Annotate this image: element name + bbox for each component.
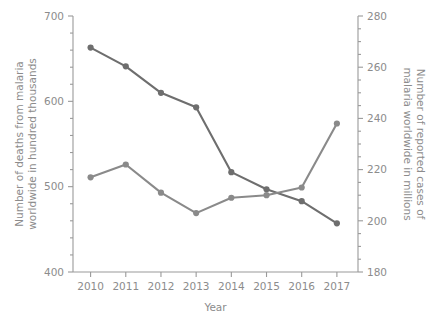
data-point bbox=[87, 174, 93, 180]
right-axis-tick-label: 280 bbox=[367, 10, 387, 22]
left-axis: 400500600700 bbox=[44, 10, 73, 278]
malaria-line-chart: 400500600700 180200220240260280 20102011… bbox=[0, 0, 440, 323]
left-axis-tick-label: 700 bbox=[44, 10, 64, 22]
x-axis-tick-label: 2014 bbox=[218, 280, 245, 292]
series-line-1 bbox=[91, 48, 337, 224]
data-point bbox=[334, 120, 340, 126]
data-point bbox=[228, 195, 234, 201]
data-point bbox=[123, 63, 129, 69]
data-point bbox=[158, 190, 164, 196]
data-point bbox=[158, 90, 164, 96]
right-axis-tick-label: 260 bbox=[367, 61, 387, 73]
right-axis-tick-label: 180 bbox=[367, 266, 387, 278]
data-point bbox=[193, 104, 199, 110]
axis-title-line: Number of deaths from malaria bbox=[13, 61, 25, 227]
x-axis-tick-label: 2016 bbox=[288, 280, 315, 292]
right-axis-tick-label: 240 bbox=[367, 112, 387, 124]
x-axis-tick-label: 2013 bbox=[183, 280, 210, 292]
axis-title-line: Number of reported cases of bbox=[415, 69, 427, 220]
data-point bbox=[263, 186, 269, 192]
x-axis-tick-label: 2015 bbox=[253, 280, 280, 292]
x-axis-tick-label: 2017 bbox=[324, 280, 351, 292]
x-axis-tick-label: 2011 bbox=[112, 280, 139, 292]
x-axis-title: Year bbox=[203, 301, 227, 313]
data-point bbox=[193, 210, 199, 216]
left-axis-tick-label: 600 bbox=[44, 95, 64, 107]
left-axis-tick-label: 400 bbox=[44, 266, 64, 278]
x-axis-tick-label: 2010 bbox=[77, 280, 104, 292]
axis-title-line: malaria worldwide in millions bbox=[402, 67, 414, 220]
right-axis-title: Number of reported cases ofmalaria world… bbox=[402, 67, 427, 220]
data-point bbox=[299, 184, 305, 190]
right-axis-tick-label: 220 bbox=[367, 163, 387, 175]
data-point bbox=[123, 161, 129, 167]
axis-titles: YearNumber of deaths from malariaworldwi… bbox=[13, 58, 427, 313]
right-axis-tick-label: 200 bbox=[367, 215, 387, 227]
series-layer bbox=[87, 44, 340, 226]
axis-title-line: worldwide in hundred thousands bbox=[26, 58, 38, 230]
x-axis: 20102011201220132014201520162017 bbox=[73, 272, 358, 292]
x-axis-tick-label: 2012 bbox=[148, 280, 175, 292]
left-axis-title: Number of deaths from malariaworldwide i… bbox=[13, 58, 38, 230]
left-axis-tick-label: 500 bbox=[44, 180, 64, 192]
data-point bbox=[299, 198, 305, 204]
data-point bbox=[263, 192, 269, 198]
right-axis: 180200220240260280 bbox=[358, 10, 387, 278]
data-point bbox=[334, 220, 340, 226]
chart-canvas: 400500600700 180200220240260280 20102011… bbox=[0, 0, 440, 323]
data-point bbox=[228, 169, 234, 175]
data-point bbox=[87, 44, 93, 50]
